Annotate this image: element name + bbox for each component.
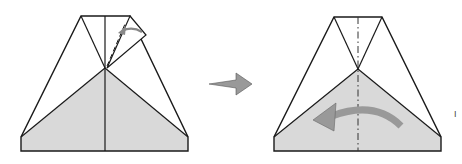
margin-mark: I (454, 109, 457, 119)
next-step-arrow-icon (209, 73, 252, 95)
step-after-figure (274, 17, 441, 151)
step-before-figure (21, 16, 188, 151)
origami-diagram: I (0, 0, 462, 164)
